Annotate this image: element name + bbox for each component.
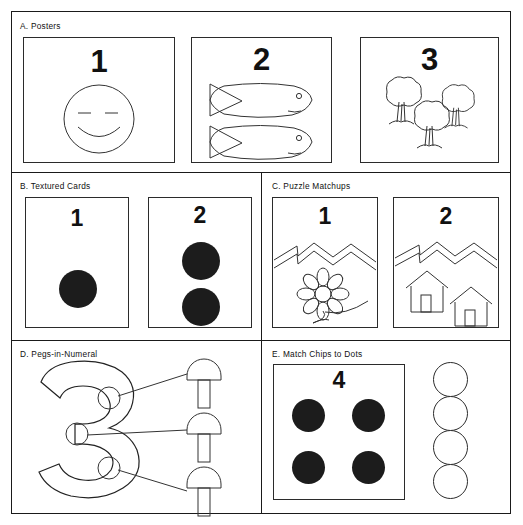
card-dot [292, 399, 325, 432]
textured-card-2-numeral: 2 [149, 204, 251, 227]
smiley-face-icon [60, 82, 138, 156]
mushroom-peg [187, 413, 221, 462]
textured-card-1[interactable]: 1 [25, 197, 129, 328]
textured-card-2[interactable]: 2 [148, 197, 252, 328]
section-b-textured-cards: B. Textured Cards 1 2 [11, 172, 261, 340]
matching-chip[interactable] [433, 464, 468, 499]
section-c-label: C. Puzzle Matchups [272, 181, 350, 191]
pegs-in-numeral-board[interactable] [19, 358, 255, 508]
poster-card-2[interactable]: 2 [191, 37, 332, 163]
trees-icon [371, 74, 491, 160]
section-a-label: A. Posters [20, 21, 61, 31]
section-e-label: E. Match Chips to Dots [272, 349, 362, 359]
puzzle-1-numeral: 1 [273, 205, 377, 228]
dot-card-numeral: 4 [274, 369, 404, 392]
card-dot [292, 451, 325, 484]
dot-card-4[interactable]: 4 [273, 364, 405, 500]
mushroom-peg [187, 467, 221, 516]
felt-dot [59, 270, 97, 308]
section-b-label: B. Textured Cards [20, 181, 91, 191]
puzzle-card-1[interactable]: 1 [272, 197, 378, 328]
poster-card-1[interactable]: 1 [23, 37, 175, 163]
figure-number-concept-materials: A. Posters 1 2 [0, 0, 523, 525]
matching-chip[interactable] [433, 362, 468, 397]
section-e-match-chips-to-dots: E. Match Chips to Dots 4 [261, 340, 511, 514]
houses-puzzle-icon [394, 238, 498, 327]
section-d-pegs-in-numeral: D. Pegs-in-Numeral [11, 340, 261, 514]
card-dot [352, 451, 385, 484]
mushroom-peg [187, 359, 221, 408]
textured-card-1-numeral: 1 [26, 207, 128, 230]
poster-3-numeral: 3 [361, 44, 498, 75]
poster-card-3[interactable]: 3 [360, 37, 499, 163]
poster-2-numeral: 2 [192, 44, 331, 75]
section-c-puzzle-matchups: C. Puzzle Matchups 1 [261, 172, 511, 340]
fish-pair-icon [202, 78, 324, 160]
section-a-posters: A. Posters 1 2 [11, 11, 511, 172]
matching-chip[interactable] [433, 430, 468, 465]
matching-chip[interactable] [433, 396, 468, 431]
puzzle-card-2[interactable]: 2 [393, 197, 499, 328]
flower-puzzle-icon [273, 238, 377, 327]
poster-1-numeral: 1 [24, 46, 174, 77]
felt-dot [182, 242, 220, 280]
puzzle-2-numeral: 2 [394, 205, 498, 228]
felt-dot [182, 288, 220, 326]
card-dot [352, 399, 385, 432]
